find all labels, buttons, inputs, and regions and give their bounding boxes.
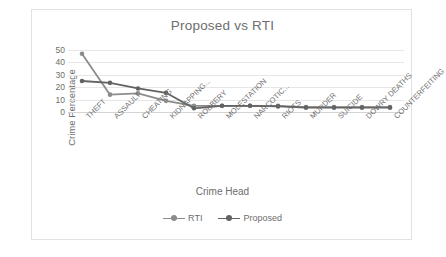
legend-marker-icon <box>163 214 185 223</box>
legend-marker-icon <box>218 214 240 223</box>
point-proposed-8 <box>304 105 309 110</box>
legend-item-rti[interactable]: RTI <box>163 213 202 223</box>
point-proposed-1 <box>108 81 113 86</box>
y-tick-0: 0 <box>60 108 65 117</box>
y-tick-40: 40 <box>56 58 65 67</box>
y-axis-tick-labels: 01020304050 <box>43 50 65 112</box>
legend-label: RTI <box>188 213 202 223</box>
chart-title: Proposed vs RTI <box>32 18 413 33</box>
point-proposed-7 <box>276 104 281 109</box>
point-proposed-0 <box>80 79 85 84</box>
chart-legend: RTIProposed <box>32 213 413 223</box>
point-proposed-11 <box>388 105 393 110</box>
chart-container: Proposed vs RTI Crime Percentage 0102030… <box>31 9 412 240</box>
point-proposed-4 <box>192 106 197 111</box>
point-rti-0 <box>80 51 85 56</box>
y-tick-10: 10 <box>56 95 65 104</box>
point-rti-1 <box>108 92 113 97</box>
y-tick-50: 50 <box>56 46 65 55</box>
legend-item-proposed[interactable]: Proposed <box>218 213 282 223</box>
point-proposed-5 <box>220 104 225 109</box>
point-proposed-10 <box>360 105 365 110</box>
y-tick-30: 30 <box>56 71 65 80</box>
x-axis-tick-labels: THEFTASSAULTCHEATINGKIDNAPPING...ROBBERY… <box>68 115 404 185</box>
x-axis-title: Crime Head <box>32 186 413 197</box>
point-proposed-9 <box>332 105 337 110</box>
y-tick-20: 20 <box>56 83 65 92</box>
point-proposed-6 <box>248 104 253 109</box>
legend-label: Proposed <box>243 213 282 223</box>
